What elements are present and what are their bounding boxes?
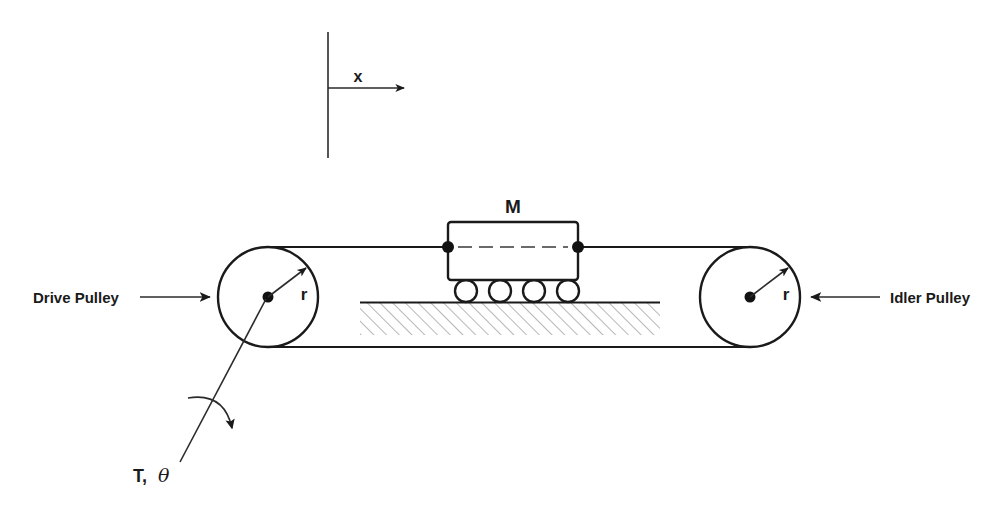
torque-leader-line [180, 299, 266, 462]
torque-label: T, [133, 466, 147, 486]
wheel-group [455, 280, 579, 302]
mass-body-rect[interactable] [448, 222, 578, 280]
torque-rotation-arrow [188, 397, 232, 428]
idler-pulley[interactable]: r [700, 247, 800, 347]
belt-attachment-dot-left [442, 241, 454, 253]
belt-drive-schematic: x r r [0, 0, 997, 511]
axis-x-label: x [354, 68, 363, 85]
idler-pulley-callout: Idler Pulley [811, 289, 971, 306]
coordinate-axis: x [328, 32, 404, 158]
drive-pulley-radius-label: r [301, 285, 308, 304]
mass-label: M [505, 196, 521, 217]
diagram-canvas: x r r [0, 0, 997, 511]
mass-assembly[interactable]: M [442, 196, 584, 302]
wheel [455, 280, 477, 302]
drive-pulley-label: Drive Pulley [33, 289, 120, 306]
drive-pulley[interactable]: r [218, 247, 318, 347]
wheel [557, 280, 579, 302]
idler-pulley-label: Idler Pulley [890, 289, 971, 306]
belt-attachment-dot-right [572, 241, 584, 253]
theta-label: θ [158, 464, 170, 486]
ground-hatch-fill [360, 303, 660, 335]
wheel [489, 280, 511, 302]
drive-pulley-callout: Drive Pulley [33, 289, 210, 306]
idler-pulley-radius-label: r [783, 285, 790, 304]
wheel [523, 280, 545, 302]
ground-support [360, 303, 660, 336]
